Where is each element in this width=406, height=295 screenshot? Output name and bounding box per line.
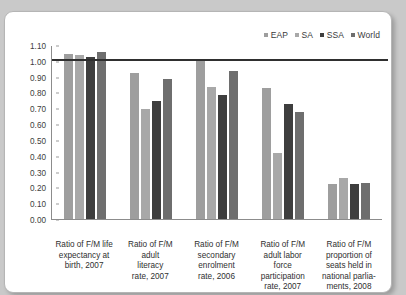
bars-container	[52, 46, 382, 219]
bar-group	[316, 46, 382, 219]
legend-item-eap[interactable]: EAP	[264, 30, 288, 40]
bar-ssa-0[interactable]	[86, 57, 95, 219]
y-axis: 1.101.000.900.800.700.600.500.400.300.20…	[13, 46, 46, 220]
y-axis-tick-label: 0.40	[30, 152, 46, 161]
x-axis-category-line: expectancy at	[53, 251, 115, 262]
legend-swatch-icon	[264, 33, 268, 37]
bar-sa-4[interactable]	[339, 178, 348, 219]
x-axis-category-label: Ratio of F/Madult laborforceparticipatio…	[250, 240, 316, 293]
legend-item-world[interactable]: World	[351, 30, 380, 40]
bar-group	[52, 46, 118, 219]
x-axis-category-line: enrolment	[185, 261, 247, 272]
bar-world-2[interactable]	[229, 71, 238, 219]
x-axis-category-line: rate, 2006	[185, 272, 247, 283]
y-axis-tick-label: 0.80	[30, 89, 46, 98]
page-background: EAPSASSAWorld 1.101.000.900.800.700.600.…	[0, 0, 406, 295]
bar-world-0[interactable]	[97, 52, 106, 219]
bar-group	[250, 46, 316, 219]
y-axis-tick-label: 0.30	[30, 168, 46, 177]
chart-legend: EAPSASSAWorld	[264, 30, 380, 40]
bar-eap-3[interactable]	[262, 88, 271, 219]
x-axis-category-label: Ratio of F/Msecondaryenrolmentrate, 2006	[183, 240, 249, 293]
bar-eap-1[interactable]	[130, 73, 139, 219]
bar-world-1[interactable]	[163, 79, 172, 219]
bar-world-3[interactable]	[295, 112, 304, 219]
x-axis-category-line: Ratio of F/M	[185, 240, 247, 251]
y-axis-tick-label: 0.20	[30, 184, 46, 193]
legend-swatch-icon	[351, 33, 355, 37]
x-axis-category-line: literacy	[119, 261, 181, 272]
x-axis-category-line: ments, 2008	[318, 282, 380, 293]
y-axis-tick-label: 0.10	[30, 200, 46, 209]
x-axis-category-line: rate, 2007	[252, 282, 314, 293]
legend-item-label: EAP	[271, 30, 288, 40]
x-axis-category-line: Ratio of F/M	[318, 240, 380, 251]
bar-sa-2[interactable]	[207, 87, 216, 219]
legend-swatch-icon	[295, 33, 299, 37]
x-axis-category-line: Ratio of F/M	[119, 240, 181, 251]
bar-ssa-4[interactable]	[350, 184, 359, 219]
plot-wrapper: 1.101.000.900.800.700.600.500.400.300.20…	[5, 46, 391, 236]
x-axis-category-line: Ratio of F/M	[252, 240, 314, 251]
plot-area	[51, 46, 382, 220]
x-axis-category-line: secondary	[185, 251, 247, 262]
y-axis-tick-label: 0.00	[30, 216, 46, 225]
x-axis-category-line: force	[252, 261, 314, 272]
x-axis-category-labels: Ratio of F/M lifeexpectancy atbirth, 200…	[51, 240, 382, 293]
legend-item-sa[interactable]: SA	[295, 30, 313, 40]
x-axis-category-line: adult	[119, 251, 181, 262]
y-axis-tick-label: 0.50	[30, 136, 46, 145]
bar-sa-3[interactable]	[273, 153, 282, 219]
legend-item-label: SA	[302, 30, 314, 40]
x-axis-category-label: Ratio of F/M lifeexpectancy atbirth, 200…	[51, 240, 117, 293]
bar-ssa-1[interactable]	[152, 101, 161, 219]
bar-eap-4[interactable]	[328, 184, 337, 219]
bar-sa-1[interactable]	[141, 109, 150, 219]
legend-item-label: SSA	[327, 30, 344, 40]
x-axis-category-line: seats held in	[318, 261, 380, 272]
y-axis-tick-label: 0.90	[30, 73, 46, 82]
x-axis-category-line: adult labor	[252, 251, 314, 262]
legend-swatch-icon	[320, 33, 324, 37]
bar-ssa-2[interactable]	[218, 95, 227, 219]
bar-eap-2[interactable]	[196, 60, 205, 219]
bar-world-4[interactable]	[361, 183, 370, 219]
bar-ssa-3[interactable]	[284, 104, 293, 219]
bar-group	[184, 46, 250, 219]
x-axis-category-label: Ratio of F/Mproportion ofseats held inna…	[316, 240, 382, 293]
x-axis-category-line: national parlia-	[318, 272, 380, 283]
x-axis-category-line: proportion of	[318, 251, 380, 262]
legend-item-label: World	[357, 30, 380, 40]
y-axis-tick-label: 0.60	[30, 121, 46, 130]
x-axis-category-line: rate, 2007	[119, 272, 181, 283]
bar-group	[118, 46, 184, 219]
y-axis-tick-label: 1.10	[30, 42, 46, 51]
chart-card: EAPSASSAWorld 1.101.000.900.800.700.600.…	[4, 11, 392, 293]
bar-sa-0[interactable]	[75, 55, 84, 219]
bar-eap-0[interactable]	[64, 54, 73, 219]
y-axis-tick-label: 1.00	[30, 57, 46, 66]
legend-item-ssa[interactable]: SSA	[320, 30, 344, 40]
x-axis-category-line: birth, 2007	[53, 261, 115, 272]
y-axis-tick-label: 0.70	[30, 105, 46, 114]
x-axis-category-line: participation	[252, 272, 314, 283]
x-axis-category-label: Ratio of F/Madultliteracyrate, 2007	[117, 240, 183, 293]
x-axis-category-line: Ratio of F/M life	[53, 240, 115, 251]
